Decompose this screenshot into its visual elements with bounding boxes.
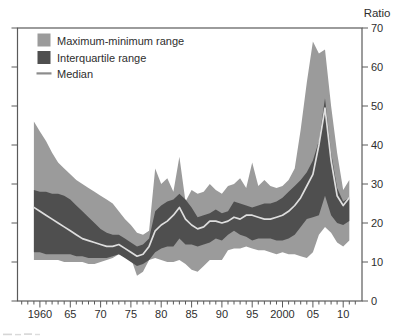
y-tick-label: 60 bbox=[371, 61, 383, 73]
x-tick-label: 65 bbox=[64, 308, 76, 320]
x-tick-label: 90 bbox=[216, 308, 228, 320]
y-tick-label: 10 bbox=[371, 256, 383, 268]
cropped-text-artifact bbox=[3, 333, 40, 335]
legend-swatch-max-min-range bbox=[38, 34, 51, 47]
legend: Maximum-minimum range Interquartile rang… bbox=[37, 34, 185, 80]
right-axis-title: Ratio bbox=[364, 7, 391, 19]
y-tick-label: 70 bbox=[371, 22, 383, 34]
x-tick-label: 75 bbox=[125, 308, 137, 320]
x-tick-label: 10 bbox=[337, 308, 349, 320]
x-tick-label: 1960 bbox=[28, 308, 52, 320]
fan-chart: 0102030405060701960657075808590952000051… bbox=[0, 0, 401, 336]
x-tick-label: 95 bbox=[246, 308, 258, 320]
y-tick-label: 0 bbox=[371, 295, 377, 307]
y-tick-label: 50 bbox=[371, 100, 383, 112]
x-tick-label: 85 bbox=[185, 308, 197, 320]
y-tick-label: 40 bbox=[371, 139, 383, 151]
fan-chart-figure: 0102030405060701960657075808590952000051… bbox=[0, 0, 401, 336]
y-tick-label: 20 bbox=[371, 217, 383, 229]
x-tick-label: 2000 bbox=[270, 308, 294, 320]
x-tick-label: 80 bbox=[155, 308, 167, 320]
y-tick-label: 30 bbox=[371, 178, 383, 190]
x-tick-label: 05 bbox=[307, 308, 319, 320]
legend-label-median: Median bbox=[57, 68, 93, 80]
legend-label-max-min-range: Maximum-minimum range bbox=[57, 35, 184, 47]
legend-median-line-swatch bbox=[37, 72, 52, 74]
legend-label-interquartile-range: Interquartile range bbox=[57, 52, 146, 64]
x-tick-label: 70 bbox=[94, 308, 106, 320]
legend-swatch-interquartile-range bbox=[38, 51, 51, 64]
